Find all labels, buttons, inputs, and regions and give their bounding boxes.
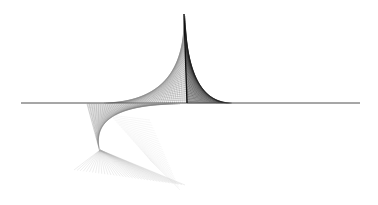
upper-left-fan-lines bbox=[104, 14, 187, 103]
lower-fan-lines bbox=[74, 150, 185, 185]
string-art-drawing bbox=[0, 0, 378, 205]
lower-cusp-lines bbox=[87, 104, 180, 152]
right-sail-dense-lines bbox=[185, 16, 232, 103]
line-families bbox=[74, 14, 232, 190]
